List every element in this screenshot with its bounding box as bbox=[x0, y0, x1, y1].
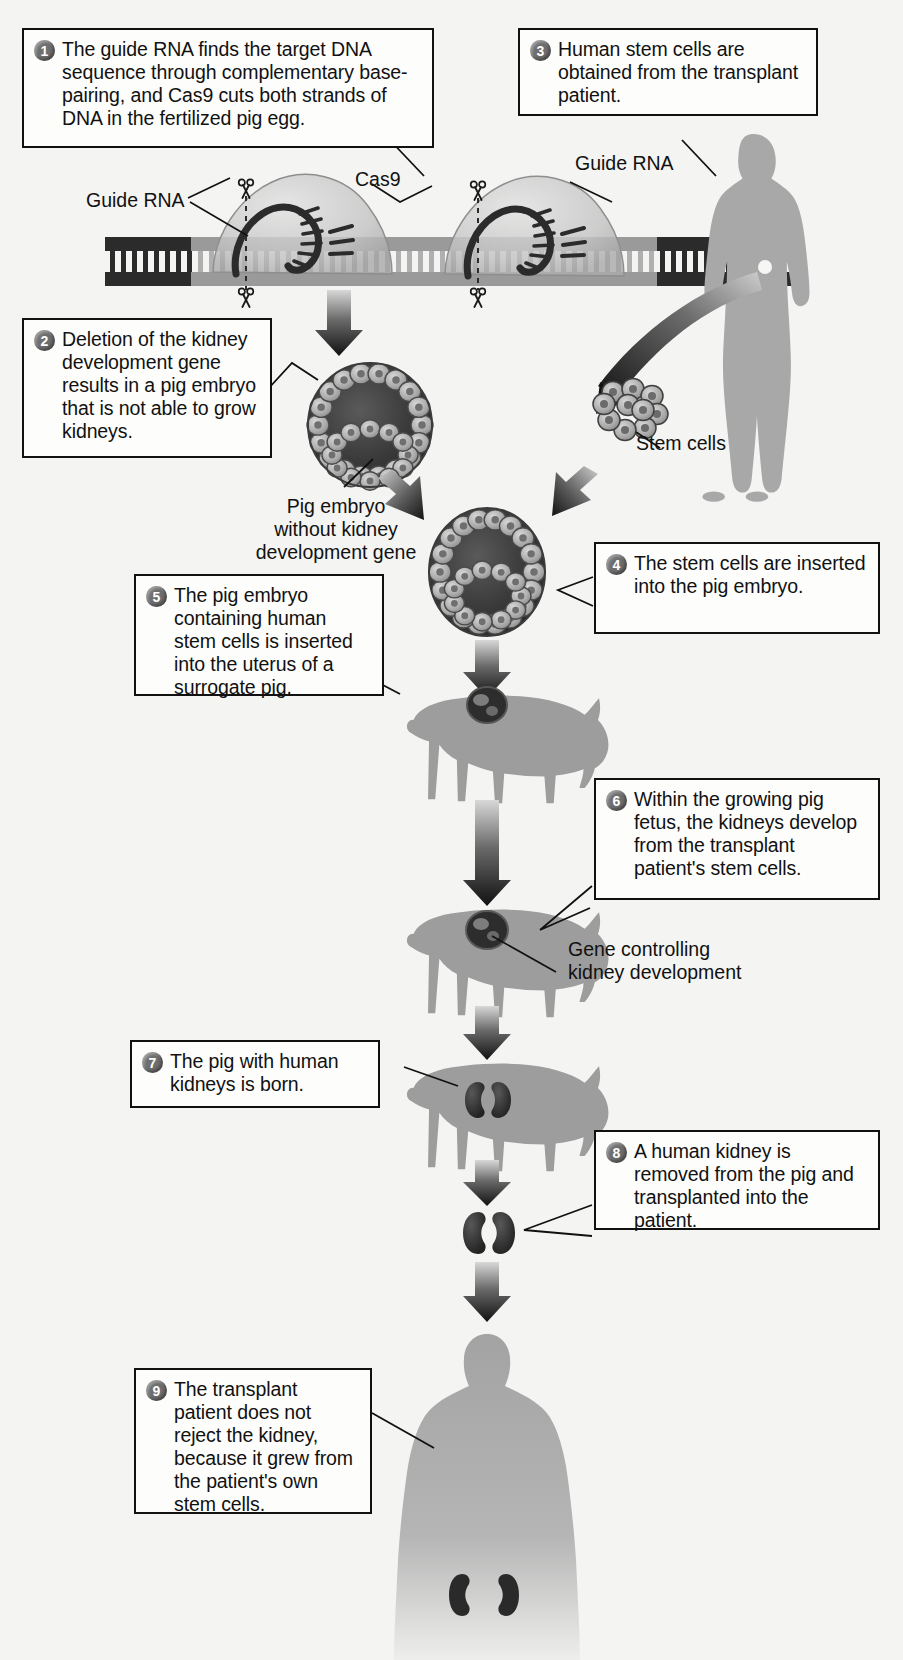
pointer-step9 bbox=[372, 1413, 434, 1448]
step-badge-3: 3 bbox=[530, 40, 551, 61]
label-guide-rna-left: Guide RNA bbox=[86, 189, 185, 212]
label-gene-controlling-line-2: kidney development bbox=[568, 961, 741, 984]
pointer-pig-embryo-caption bbox=[344, 459, 373, 487]
step-text-8: A human kidney is removed from the pig a… bbox=[634, 1140, 868, 1232]
step-text-5: The pig embryo containing human stem cel… bbox=[174, 584, 372, 699]
callout-step-6[interactable]: 6 Within the growing pig fetus, the kidn… bbox=[594, 778, 880, 900]
label-cas9: Cas9 bbox=[355, 168, 401, 191]
callout-step-3[interactable]: 3 Human stem cells are obtained from the… bbox=[518, 28, 818, 116]
step-text-1: The guide RNA finds the target DNA seque… bbox=[62, 38, 422, 130]
step-text-7: The pig with human kidneys is born. bbox=[170, 1050, 368, 1096]
label-guide-rna-right: Guide RNA bbox=[575, 152, 674, 175]
label-stem-cells: Stem cells bbox=[636, 432, 726, 455]
diagram-canvas: 1 The guide RNA finds the target DNA seq… bbox=[0, 0, 903, 1660]
callout-step-8[interactable]: 8 A human kidney is removed from the pig… bbox=[594, 1130, 880, 1230]
step-badge-7: 7 bbox=[142, 1052, 163, 1073]
callout-step-7[interactable]: 7 The pig with human kidneys is born. bbox=[130, 1040, 380, 1108]
callout-step-2[interactable]: 2 Deletion of the kidney development gen… bbox=[22, 318, 272, 458]
pointer-step2 bbox=[268, 363, 318, 389]
step-badge-9: 9 bbox=[146, 1380, 167, 1401]
step-text-2: Deletion of the kidney development gene … bbox=[62, 328, 260, 443]
callout-step-5[interactable]: 5 The pig embryo containing human stem c… bbox=[134, 574, 384, 696]
pointer-step3 bbox=[682, 140, 716, 176]
label-pig-embryo-line-3: development gene bbox=[236, 541, 436, 564]
pointer-step6 bbox=[540, 886, 592, 930]
step-badge-1: 1 bbox=[34, 40, 55, 61]
callout-step-4[interactable]: 4 The stem cells are inserted into the p… bbox=[594, 542, 880, 634]
callout-step-1[interactable]: 1 The guide RNA finds the target DNA seq… bbox=[22, 28, 434, 148]
pointer-step8 bbox=[524, 1205, 592, 1236]
pointer-step7 bbox=[404, 1067, 458, 1086]
step-text-6: Within the growing pig fetus, the kidney… bbox=[634, 788, 868, 880]
step-badge-6: 6 bbox=[606, 790, 627, 811]
step-text-4: The stem cells are inserted into the pig… bbox=[634, 552, 868, 598]
label-gene-controlling-line-1: Gene controlling bbox=[568, 938, 741, 961]
step-badge-4: 4 bbox=[606, 554, 627, 575]
step-badge-2: 2 bbox=[34, 330, 55, 351]
step-text-9: The transplant patient does not reject t… bbox=[174, 1378, 360, 1516]
label-pig-embryo-line-1: Pig embryo bbox=[236, 495, 436, 518]
callout-step-9[interactable]: 9 The transplant patient does not reject… bbox=[134, 1368, 372, 1514]
pointer-step4 bbox=[558, 577, 593, 606]
step-text-3: Human stem cells are obtained from the t… bbox=[558, 38, 806, 107]
step-badge-5: 5 bbox=[146, 586, 167, 607]
label-pig-embryo-line-2: without kidney bbox=[236, 518, 436, 541]
step-badge-8: 8 bbox=[606, 1142, 627, 1163]
label-gene-controlling: Gene controlling kidney development bbox=[568, 938, 741, 984]
label-pig-embryo-caption: Pig embryo without kidney development ge… bbox=[236, 495, 436, 564]
